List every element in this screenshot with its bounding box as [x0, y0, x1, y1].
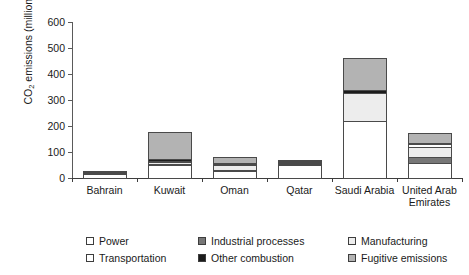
y-axis-tick-mark	[68, 74, 72, 75]
legend-swatch-icon	[86, 254, 94, 262]
legend-item-power[interactable]: Power	[86, 235, 198, 247]
y-axis-tick-mark	[68, 48, 72, 49]
legend-item-transportation[interactable]: Transportation	[86, 252, 198, 264]
x-axis-label-united-arab-emirates: United Arab Emirates	[391, 184, 468, 208]
legend-swatch-icon	[348, 254, 356, 262]
legend-item-other-combustion[interactable]: Other combustion	[198, 252, 348, 264]
x-axis-tick-mark	[72, 178, 73, 182]
bar-segment-power[interactable]	[343, 121, 387, 180]
legend-item-manufacturing[interactable]: Manufacturing	[348, 235, 456, 247]
y-axis-tick-label: 400	[47, 69, 65, 79]
y-axis-tick-mark	[68, 126, 72, 127]
bar-segment-fugitive-emissions[interactable]	[343, 58, 387, 91]
y-axis-tick-label: 300	[47, 95, 65, 105]
plot-area: 0100200300400500600	[72, 22, 462, 178]
bar-united-arab-emirates[interactable]	[408, 133, 452, 178]
x-axis-tick-mark	[202, 178, 203, 182]
legend-swatch-icon	[198, 237, 206, 245]
bar-bahrain[interactable]	[83, 171, 127, 178]
y-axis-tick-label: 500	[47, 43, 65, 53]
bar-kuwait[interactable]	[148, 132, 192, 178]
y-axis-title-suffix: emissions (million tonnes/year)	[22, 0, 34, 85]
x-axis-tick-mark	[332, 178, 333, 182]
legend-swatch-icon	[86, 237, 94, 245]
legend-label: Industrial processes	[211, 235, 304, 247]
bar-segment-manufacturing[interactable]	[343, 93, 387, 122]
y-axis-title-subscript: 2	[27, 85, 36, 89]
bar-segment-power[interactable]	[213, 171, 257, 179]
bar-segment-power[interactable]	[83, 174, 127, 179]
bar-segment-power[interactable]	[148, 165, 192, 179]
y-axis-tick-label: 600	[47, 17, 65, 27]
legend-label: Manufacturing	[361, 235, 428, 247]
legend-swatch-icon	[348, 237, 356, 245]
bar-saudi-arabia[interactable]	[343, 58, 387, 178]
x-axis-tick-mark	[267, 178, 268, 182]
y-axis-line	[72, 22, 73, 178]
y-axis-tick-label: 0	[59, 173, 65, 183]
y-axis-title: CO2 emissions (million tonnes/year)	[22, 0, 36, 106]
chart-legend: PowerIndustrial processesManufacturingTr…	[86, 232, 456, 266]
legend-item-fugitive-emissions[interactable]: Fugitive emissions	[348, 252, 456, 264]
x-axis-tick-mark	[397, 178, 398, 182]
legend-label: Power	[99, 235, 129, 247]
y-axis-tick-mark	[68, 152, 72, 153]
legend-label: Transportation	[99, 252, 166, 264]
y-axis-tick-mark	[68, 22, 72, 23]
y-axis-tick-label: 200	[47, 121, 65, 131]
legend-label: Fugitive emissions	[361, 252, 447, 264]
x-axis-tick-mark	[137, 178, 138, 182]
co2-emissions-stacked-bar-chart: CO2 emissions (million tonnes/year) 0100…	[0, 0, 469, 275]
legend-item-industrial-processes[interactable]: Industrial processes	[198, 235, 348, 247]
y-axis-tick-mark	[68, 100, 72, 101]
bar-segment-fugitive-emissions[interactable]	[148, 132, 192, 161]
y-axis-tick-label: 100	[47, 147, 65, 157]
x-axis-tick-mark	[462, 178, 463, 182]
legend-label: Other combustion	[211, 252, 294, 264]
bar-segment-power[interactable]	[408, 163, 452, 179]
legend-swatch-icon	[198, 254, 206, 262]
bar-segment-power[interactable]	[278, 165, 322, 179]
bar-oman[interactable]	[213, 157, 257, 178]
y-axis-title-prefix: CO	[22, 89, 34, 105]
bar-qatar[interactable]	[278, 160, 322, 178]
